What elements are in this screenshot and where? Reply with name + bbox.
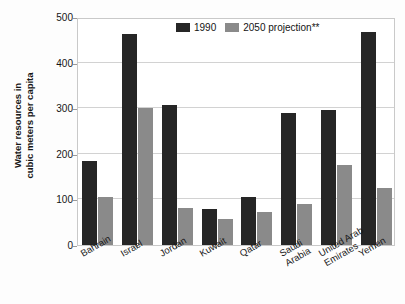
bar (361, 32, 376, 245)
bar (82, 161, 97, 245)
bar (162, 105, 177, 245)
bar-group (202, 19, 233, 245)
bar (122, 34, 137, 245)
legend-item: 2050 projection** (225, 22, 319, 33)
bar (241, 197, 256, 245)
y-tick-label-0: 0 (39, 240, 73, 251)
bar-group (82, 19, 113, 245)
bar-group (241, 19, 272, 245)
bar-group (361, 19, 392, 245)
bar-group (122, 19, 153, 245)
legend-item: 1990 (176, 22, 216, 33)
legend-swatch-icon (176, 23, 190, 32)
legend-label: 1990 (194, 22, 216, 33)
legend-label: 2050 projection** (243, 22, 319, 33)
y-axis-title-line1: Water resources in (12, 82, 23, 167)
y-tick-label-300: 300 (39, 103, 73, 114)
legend-swatch-icon (225, 23, 239, 32)
y-axis-title-text: Water resources in cubic meters per capi… (12, 72, 35, 178)
y-axis-title-line2: cubic meters per capita (23, 72, 34, 178)
plot-inner (78, 19, 394, 245)
bar (138, 108, 153, 245)
bar (281, 113, 296, 245)
bar-group (281, 19, 312, 245)
y-axis-ticks: 0100200300400500 (37, 18, 73, 246)
y-tick-label-200: 200 (39, 149, 73, 160)
chart-figure: Water resources in cubic meters per capi… (0, 0, 405, 304)
bar-group (162, 19, 193, 245)
plot-area (77, 18, 395, 246)
x-axis-labels: BahrainIsraelJordanKuwaitQatarSaudiArabi… (77, 246, 395, 304)
y-tick-label-400: 400 (39, 58, 73, 69)
bar-group (321, 19, 352, 245)
chart-legend: 19902050 projection** (176, 22, 319, 33)
y-tick-label-100: 100 (39, 194, 73, 205)
bar (321, 110, 336, 245)
y-tick-label-500: 500 (39, 12, 73, 23)
